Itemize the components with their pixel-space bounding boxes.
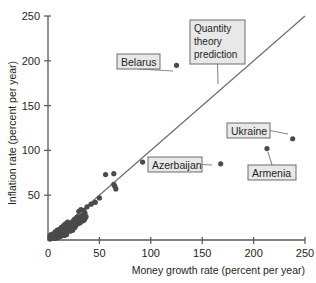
data-point — [103, 172, 108, 177]
data-point — [64, 232, 69, 237]
annotation-label: prediction — [194, 49, 237, 60]
data-point — [174, 63, 179, 68]
data-point — [81, 208, 86, 213]
y-axis-ticks: 50100150200250 — [22, 10, 51, 201]
y-axis-title: Inflation rate (percent per year) — [6, 61, 18, 205]
x-tick-label: 0 — [45, 247, 51, 259]
annotation-quantity-theory-prediction: Quantitytheoryprediction — [190, 20, 245, 84]
annotation-leader-line — [202, 165, 212, 166]
x-tick-label: 100 — [142, 247, 160, 259]
data-points-group — [47, 63, 295, 242]
y-tick-label: 250 — [22, 10, 40, 22]
data-point — [140, 159, 145, 164]
data-point — [97, 195, 102, 200]
annotation-azerbaijan: Azerbaijan — [148, 157, 212, 172]
data-point — [47, 233, 52, 238]
x-tick-label: 50 — [93, 247, 105, 259]
annotation-ukraine: Ukraine — [227, 123, 288, 138]
annotation-label: Belarus — [121, 56, 157, 68]
data-point — [111, 182, 116, 187]
data-point — [290, 136, 295, 141]
data-point — [83, 214, 88, 219]
annotation-label: theory — [194, 36, 222, 47]
chart-page: 50100150200250050100150200250Inflation r… — [0, 0, 316, 283]
y-tick-label: 200 — [22, 55, 40, 67]
data-point — [74, 215, 79, 220]
y-tick-label: 50 — [28, 189, 40, 201]
x-tick-label: 250 — [296, 247, 314, 259]
annotation-belarus: Belarus — [117, 54, 173, 71]
x-tick-label: 200 — [244, 247, 262, 259]
y-tick-label: 150 — [22, 100, 40, 112]
annotation-label: Ukraine — [231, 125, 267, 137]
y-tick-label: 100 — [22, 144, 40, 156]
data-point — [70, 228, 75, 233]
x-tick-label: 150 — [193, 247, 211, 259]
annotation-leader-line — [270, 131, 288, 135]
annotation-label: Armenia — [252, 167, 291, 179]
x-axis-title: Money growth rate (percent per year) — [132, 264, 305, 276]
data-point — [264, 146, 269, 151]
annotation-armenia: Armenia — [248, 152, 296, 180]
scatter-chart: 50100150200250050100150200250Inflation r… — [0, 0, 316, 283]
annotation-leader-line — [218, 64, 219, 84]
data-point — [218, 161, 223, 166]
data-point — [111, 171, 116, 176]
annotation-leader-line — [268, 152, 272, 165]
annotation-label: Azerbaijan — [152, 159, 202, 171]
annotation-label: Quantity — [194, 23, 231, 34]
data-point — [113, 186, 118, 191]
